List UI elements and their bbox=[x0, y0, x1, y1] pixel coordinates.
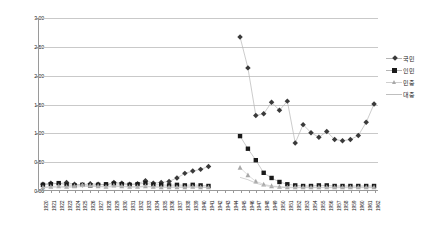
chart-legend: 국민인민민중대중 bbox=[386, 52, 427, 100]
x-tick-label: 1944 bbox=[234, 201, 239, 211]
x-tick-mark bbox=[343, 190, 344, 193]
data-point bbox=[316, 135, 321, 140]
series-plot bbox=[39, 18, 378, 190]
x-tick-label: 1948 bbox=[265, 201, 270, 211]
x-tick-mark bbox=[177, 190, 178, 193]
data-point bbox=[253, 113, 258, 118]
x-tick-mark bbox=[296, 190, 297, 193]
x-tick-mark bbox=[256, 190, 257, 193]
x-tick-mark bbox=[185, 190, 186, 193]
data-point bbox=[198, 167, 203, 172]
x-tick-mark bbox=[67, 190, 68, 193]
x-tick-label: 1936 bbox=[170, 201, 175, 211]
y-tick-mark bbox=[36, 191, 39, 192]
x-tick-mark bbox=[280, 190, 281, 193]
x-tick-mark bbox=[51, 190, 52, 193]
x-tick-mark bbox=[209, 190, 210, 193]
x-tick-mark bbox=[106, 190, 107, 193]
data-point bbox=[261, 171, 265, 175]
x-tick-label: 1952 bbox=[297, 201, 302, 211]
data-point bbox=[182, 171, 187, 176]
data-point bbox=[363, 120, 368, 125]
data-point bbox=[246, 147, 250, 151]
data-point bbox=[269, 176, 273, 180]
legend-label: 대중 bbox=[403, 90, 415, 99]
x-tick-mark bbox=[320, 190, 321, 193]
x-tick-mark bbox=[193, 190, 194, 193]
x-tick-label: 1933 bbox=[147, 201, 152, 211]
x-tick-mark bbox=[312, 190, 313, 193]
x-tick-label: 1955 bbox=[321, 201, 326, 211]
x-tick-label: 1946 bbox=[250, 201, 255, 211]
x-tick-label: 1949 bbox=[273, 201, 278, 211]
data-point bbox=[356, 133, 361, 138]
x-tick-label: 1939 bbox=[194, 201, 199, 211]
x-tick-label: 1945 bbox=[242, 201, 247, 211]
x-tick-label: 1926 bbox=[91, 201, 96, 211]
data-point bbox=[174, 175, 179, 180]
x-tick-label: 1935 bbox=[163, 201, 168, 211]
legend-marker-icon bbox=[386, 77, 402, 87]
data-point bbox=[245, 65, 250, 70]
legend-item-1[interactable]: 국민 bbox=[386, 52, 427, 64]
x-tick-label: 1951 bbox=[289, 201, 294, 211]
x-tick-label: 1940 bbox=[202, 201, 207, 211]
x-tick-label: 1953 bbox=[305, 201, 310, 211]
x-tick-mark bbox=[122, 190, 123, 193]
legend-item-3[interactable]: 민중 bbox=[386, 76, 427, 88]
legend-label: 국민 bbox=[403, 54, 415, 63]
legend-marker-icon bbox=[386, 65, 402, 75]
x-tick-label: 1942 bbox=[218, 201, 223, 211]
x-tick-mark bbox=[138, 190, 139, 193]
x-tick-mark bbox=[367, 190, 368, 193]
x-tick-mark bbox=[288, 190, 289, 193]
legend-item-4[interactable]: 대중 bbox=[386, 88, 427, 100]
data-point bbox=[206, 164, 211, 169]
x-tick-label: 1947 bbox=[257, 201, 262, 211]
x-tick-mark bbox=[43, 190, 44, 193]
x-tick-mark bbox=[59, 190, 60, 193]
x-tick-mark bbox=[162, 190, 163, 193]
legend-marker-icon bbox=[386, 89, 402, 99]
data-point bbox=[238, 165, 243, 170]
x-tick-label: 1950 bbox=[281, 201, 286, 211]
x-tick-label: 1957 bbox=[337, 201, 342, 211]
data-point bbox=[254, 158, 258, 162]
data-point bbox=[292, 140, 297, 145]
x-tick-mark bbox=[201, 190, 202, 193]
x-tick-label: 1934 bbox=[155, 201, 160, 211]
x-tick-mark bbox=[90, 190, 91, 193]
x-tick-mark bbox=[98, 190, 99, 193]
data-point bbox=[237, 34, 242, 39]
legend-label: 민중 bbox=[403, 78, 415, 87]
x-tick-mark bbox=[217, 190, 218, 193]
data-point bbox=[371, 101, 376, 106]
data-point bbox=[261, 111, 266, 116]
series-line bbox=[240, 37, 374, 143]
x-tick-mark bbox=[154, 190, 155, 193]
x-tick-mark bbox=[249, 190, 250, 193]
x-tick-label: 1925 bbox=[83, 201, 88, 211]
data-point bbox=[277, 180, 281, 184]
x-tick-label: 1929 bbox=[115, 201, 120, 211]
plot-area bbox=[38, 18, 378, 191]
x-tick-label: 1958 bbox=[344, 201, 349, 211]
x-tick-mark bbox=[82, 190, 83, 193]
x-tick-label: 1920 bbox=[44, 201, 49, 211]
legend-label: 인민 bbox=[403, 66, 415, 75]
legend-item-2[interactable]: 인민 bbox=[386, 64, 427, 76]
x-tick-label: 1956 bbox=[329, 201, 334, 211]
x-tick-mark bbox=[130, 190, 131, 193]
x-tick-label: 1931 bbox=[131, 201, 136, 211]
x-tick-label: 1932 bbox=[139, 201, 144, 211]
x-tick-label: 1959 bbox=[352, 201, 357, 211]
x-tick-mark bbox=[233, 190, 234, 193]
series-line bbox=[240, 136, 374, 186]
x-tick-label: 1924 bbox=[76, 201, 81, 211]
x-tick-label: 1941 bbox=[210, 201, 215, 211]
x-tick-mark bbox=[328, 190, 329, 193]
x-tick-label: 1961 bbox=[368, 201, 373, 211]
x-tick-mark bbox=[272, 190, 273, 193]
x-tick-label: 1960 bbox=[360, 201, 365, 211]
data-point bbox=[190, 168, 195, 173]
